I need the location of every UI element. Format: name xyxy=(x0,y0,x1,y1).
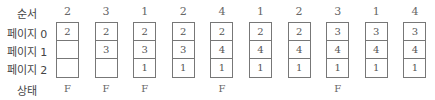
reference-value: 1 xyxy=(133,5,156,18)
frame-page1: 3 xyxy=(134,41,155,59)
frame-page0: 2 xyxy=(211,23,232,41)
frame-page1: 4 xyxy=(366,41,387,59)
fault-status: F xyxy=(210,83,233,94)
frame-box: 341 xyxy=(326,22,349,78)
frame-page2: 1 xyxy=(366,59,387,77)
frame-box: 241 xyxy=(210,22,233,78)
reference-value: 2 xyxy=(172,5,195,18)
frame-box: 341 xyxy=(365,22,388,78)
frame-box: 241 xyxy=(288,22,311,78)
reference-value: 4 xyxy=(403,5,426,18)
frame-page2: 1 xyxy=(327,59,348,77)
frame-page2 xyxy=(57,59,78,77)
frame-box: 231 xyxy=(172,22,195,78)
fault-status: F xyxy=(95,83,118,94)
frame-page0: 2 xyxy=(289,23,310,41)
frame-page1: 4 xyxy=(250,41,271,59)
reference-value: 1 xyxy=(249,5,272,18)
row-label-page0: 페이지 0 xyxy=(0,25,54,41)
frame-page2: 1 xyxy=(289,59,310,77)
reference-value: 4 xyxy=(210,5,233,18)
frame-page1: 4 xyxy=(327,41,348,59)
frame-page2: 1 xyxy=(173,59,194,77)
reference-value: 3 xyxy=(326,5,349,18)
frame-page1: 4 xyxy=(211,41,232,59)
reference-value: 3 xyxy=(95,5,118,18)
frame-page0: 2 xyxy=(96,23,117,41)
frame-box: 2 xyxy=(56,22,79,78)
row-label-status: 상태 xyxy=(0,82,54,98)
frame-page0: 3 xyxy=(327,23,348,41)
fault-status: F xyxy=(56,83,79,94)
frame-page1: 3 xyxy=(173,41,194,59)
frame-page1: 4 xyxy=(404,41,425,59)
frame-page0: 2 xyxy=(173,23,194,41)
frame-page2: 1 xyxy=(250,59,271,77)
frame-page2: 1 xyxy=(404,59,425,77)
frame-page1 xyxy=(57,41,78,59)
row-label-page2: 페이지 2 xyxy=(0,61,54,77)
frame-page2 xyxy=(96,59,117,77)
row-label-sequence: 순서 xyxy=(0,5,54,21)
fault-status: F xyxy=(326,83,349,94)
frame-box: 341 xyxy=(403,22,426,78)
row-label-page1: 페이지 1 xyxy=(0,43,54,59)
frame-box: 241 xyxy=(249,22,272,78)
frame-page0: 2 xyxy=(57,23,78,41)
frame-page0: 3 xyxy=(366,23,387,41)
frame-page1: 3 xyxy=(96,41,117,59)
reference-value: 1 xyxy=(365,5,388,18)
frame-page0: 2 xyxy=(250,23,271,41)
frame-page0: 3 xyxy=(404,23,425,41)
frame-page2: 1 xyxy=(211,59,232,77)
fault-status: F xyxy=(133,83,156,94)
frame-box: 23 xyxy=(95,22,118,78)
frame-page1: 4 xyxy=(289,41,310,59)
frame-page2: 1 xyxy=(134,59,155,77)
frame-page0: 2 xyxy=(134,23,155,41)
frame-box: 231 xyxy=(133,22,156,78)
reference-value: 2 xyxy=(288,5,311,18)
reference-value: 2 xyxy=(56,5,79,18)
